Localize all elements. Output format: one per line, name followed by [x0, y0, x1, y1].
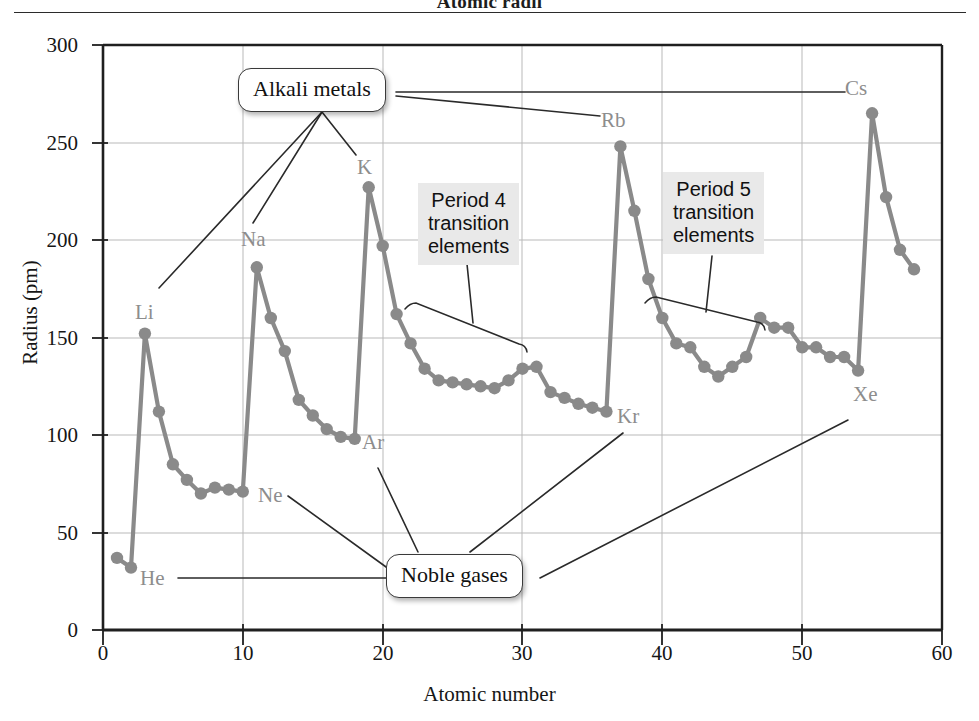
data-point — [656, 312, 668, 324]
callout-noble-gases[interactable]: Noble gases — [386, 554, 523, 598]
element-label-Ne: Ne — [258, 483, 283, 508]
leader-alkali-li — [159, 112, 322, 288]
data-point — [223, 483, 235, 495]
data-point — [418, 363, 430, 375]
leader-period4 — [467, 264, 473, 323]
data-point — [363, 181, 375, 193]
data-point — [810, 341, 822, 353]
data-point — [712, 370, 724, 382]
data-point — [614, 140, 626, 152]
data-point — [125, 561, 137, 573]
leader-period5 — [706, 256, 712, 312]
data-point — [237, 485, 249, 497]
data-point — [265, 312, 277, 324]
leader-noble-ne — [288, 496, 393, 572]
data-point — [488, 382, 500, 394]
data-point — [670, 337, 682, 349]
element-label-Na: Na — [241, 227, 266, 252]
element-label-Li: Li — [135, 300, 154, 325]
data-point — [866, 107, 878, 119]
data-point — [838, 351, 850, 363]
data-point — [544, 386, 556, 398]
element-label-Kr: Kr — [617, 404, 639, 429]
data-point — [530, 361, 542, 373]
leader-alkali-na — [253, 112, 322, 223]
data-point — [474, 380, 486, 392]
period5-line-1: Period 5 — [676, 178, 751, 200]
data-point — [586, 402, 598, 414]
data-point — [251, 261, 263, 273]
leader-noble-kr — [470, 433, 623, 552]
element-label-Rb: Rb — [601, 108, 626, 133]
data-point — [824, 351, 836, 363]
data-point — [642, 273, 654, 285]
data-point — [111, 552, 123, 564]
data-point — [390, 308, 402, 320]
data-point — [153, 405, 165, 417]
data-point — [768, 322, 780, 334]
data-point — [796, 341, 808, 353]
element-label-He: He — [140, 566, 165, 591]
data-point — [321, 423, 333, 435]
period5-line-2: transition — [673, 201, 754, 223]
leader-alkali-k — [322, 112, 356, 155]
data-point — [558, 392, 570, 404]
data-point — [139, 327, 151, 339]
data-point — [335, 431, 347, 443]
data-point — [894, 244, 906, 256]
period4-line-3: elements — [428, 235, 509, 257]
data-point — [293, 394, 305, 406]
gridlines — [103, 45, 942, 630]
data-point — [740, 351, 752, 363]
element-label-Cs: Cs — [845, 76, 867, 101]
data-point — [572, 398, 584, 410]
element-label-Xe: Xe — [853, 382, 878, 407]
bracket-period4 — [405, 303, 527, 352]
series-line — [117, 113, 914, 567]
data-point — [628, 205, 640, 217]
data-point — [167, 458, 179, 470]
leader-alkali-rb — [396, 96, 600, 116]
data-point — [209, 481, 221, 493]
period4-line-1: Period 4 — [431, 189, 506, 211]
data-point — [684, 341, 696, 353]
data-point — [404, 337, 416, 349]
data-point — [279, 345, 291, 357]
element-label-K: K — [357, 155, 372, 180]
data-point — [432, 374, 444, 386]
data-point — [307, 409, 319, 421]
data-point — [600, 405, 612, 417]
chart-page: Atomic radii Radius (pm) Atomic number 0… — [0, 0, 979, 721]
label-period-4-transition-elements: Period 4 transition elements — [418, 183, 519, 265]
data-point — [880, 191, 892, 203]
data-point — [516, 363, 528, 375]
data-series — [111, 107, 920, 574]
period4-line-2: transition — [428, 212, 509, 234]
period5-line-3: elements — [673, 224, 754, 246]
data-point — [195, 487, 207, 499]
leader-noble-ar — [378, 468, 418, 552]
data-point — [181, 474, 193, 486]
chart-plot-area — [0, 0, 979, 721]
callout-alkali-metals[interactable]: Alkali metals — [238, 68, 386, 112]
data-point — [349, 433, 361, 445]
data-point — [446, 376, 458, 388]
data-point — [502, 374, 514, 386]
data-point — [782, 322, 794, 334]
data-point — [726, 361, 738, 373]
element-label-Ar: Ar — [362, 430, 384, 455]
data-point — [377, 240, 389, 252]
data-point — [852, 364, 864, 376]
data-point — [460, 378, 472, 390]
data-point — [698, 361, 710, 373]
data-point — [908, 263, 920, 275]
label-period-5-transition-elements: Period 5 transition elements — [663, 172, 764, 254]
